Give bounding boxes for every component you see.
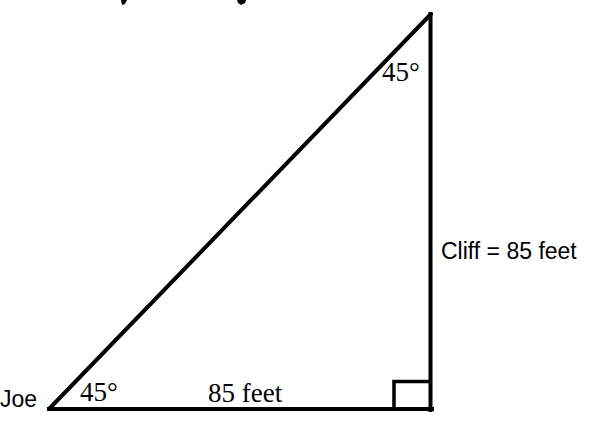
right-angle-marker xyxy=(394,382,430,410)
cut-off-title-fragments xyxy=(121,0,246,5)
title-descender-g xyxy=(237,0,246,5)
base-length-label: 85 feet xyxy=(208,380,282,407)
title-descender-y xyxy=(121,0,127,5)
right-triangle-diagram xyxy=(0,0,605,425)
observer-label-joe: Joe xyxy=(0,388,37,411)
cliff-height-label: Cliff = 85 feet xyxy=(441,240,577,263)
top-angle-label: 45° xyxy=(382,59,420,86)
hypotenuse-line xyxy=(49,14,431,409)
bottom-angle-label: 45° xyxy=(80,379,118,406)
